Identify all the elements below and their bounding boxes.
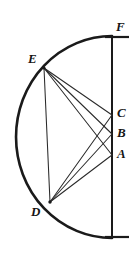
point-label-f: F — [116, 20, 125, 33]
point-label-b: B — [117, 126, 126, 139]
point-label-a: A — [117, 147, 126, 160]
point-label-c: C — [117, 106, 126, 119]
chord-e-c — [44, 68, 112, 115]
chord-d-b — [50, 134, 112, 202]
chord-e-d — [44, 68, 50, 202]
chord-d-a — [50, 155, 112, 202]
chord-e-a — [44, 68, 112, 155]
vertex-point-d — [48, 200, 51, 203]
geometry-figure: F E C B A D — [0, 0, 139, 253]
point-label-e: E — [28, 52, 37, 65]
point-label-d: D — [31, 205, 40, 218]
chord-e-b — [44, 68, 112, 134]
chord-d-c — [50, 115, 112, 202]
vertex-point-e — [42, 66, 45, 69]
